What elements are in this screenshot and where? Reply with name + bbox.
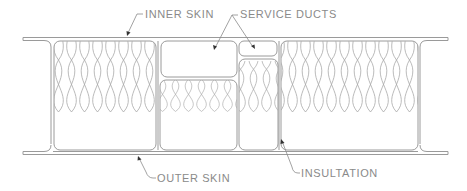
large-service-duct [161,41,237,77]
small-service-duct [239,41,277,56]
inner-skin-leader [128,14,143,33]
arrowhead-icon [138,156,142,161]
label-outer-skin: OUTER SKIN [157,173,230,184]
insulation-center-right [236,61,280,159]
insulation-center-left [158,79,238,153]
label-service-ducts: SERVICE DUCTS [240,9,337,20]
wall-section-diagram [0,0,467,191]
insulation-right [280,38,420,153]
label-inner-skin: INNER SKIN [145,9,214,20]
outer-skin-leader [139,158,156,178]
arrowhead-icon [127,31,131,36]
insulation-left [54,38,158,153]
label-insulation: INSULTATION [301,168,378,179]
